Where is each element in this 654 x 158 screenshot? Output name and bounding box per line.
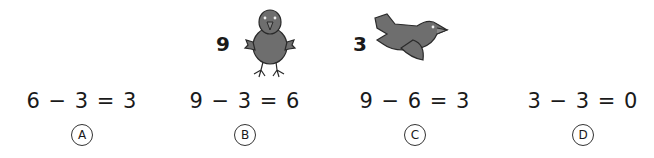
flying-bird-icon: [373, 10, 449, 66]
label-b: B: [234, 124, 256, 146]
option-a[interactable]: 6 − 3 = 3 A: [2, 86, 162, 146]
option-b[interactable]: 9 − 3 = 6 B: [165, 86, 325, 146]
standing-bird-icon: [243, 2, 297, 78]
option-c[interactable]: 9 − 6 = 3 C: [335, 86, 495, 146]
bird-picture: 9 3: [0, 0, 654, 80]
equation-c: 9 − 6 = 3: [335, 86, 495, 116]
equation-a: 6 − 3 = 3: [2, 86, 162, 116]
equation-b: 9 − 3 = 6: [165, 86, 325, 116]
option-d[interactable]: 3 − 3 = 0 D: [503, 86, 654, 146]
label-c: C: [404, 124, 426, 146]
label-d: D: [572, 124, 594, 146]
equation-d: 3 − 3 = 0: [503, 86, 654, 116]
standing-bird-count: 9: [216, 32, 230, 56]
label-a: A: [71, 124, 93, 146]
flying-bird-count: 3: [353, 32, 367, 56]
